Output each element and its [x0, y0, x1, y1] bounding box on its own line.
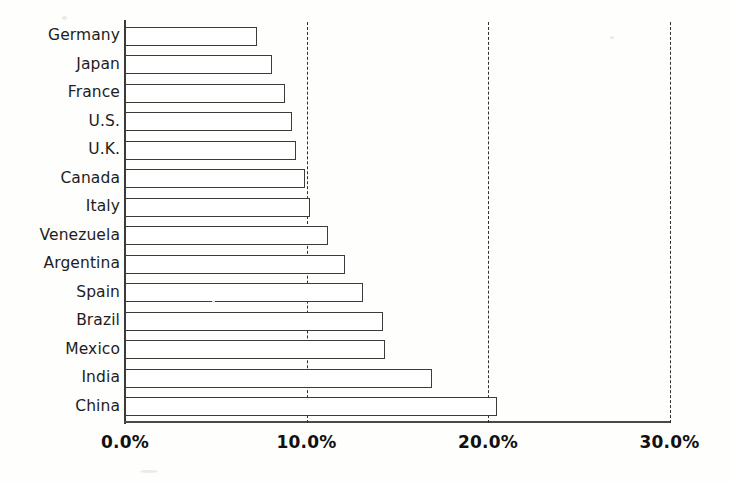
category-label-spain: Spain — [76, 285, 120, 301]
category-label-france: France — [68, 85, 120, 101]
category-label-india: India — [81, 370, 120, 386]
category-label-japan: Japan — [76, 57, 120, 73]
bars-group: GermanyJapanFranceU.S.U.K.CanadaItalyVen… — [0, 0, 731, 484]
bar-spain — [125, 283, 363, 302]
x-tick-label: 20.0% — [458, 432, 518, 452]
bar-canada — [125, 169, 305, 188]
category-label-italy: Italy — [86, 199, 120, 215]
category-label-uk: U.K. — [88, 142, 120, 158]
category-label-mexico: Mexico — [65, 342, 120, 358]
category-label-china: China — [75, 399, 120, 415]
category-label-venezuela: Venezuela — [40, 228, 121, 244]
bar-mexico — [125, 340, 385, 359]
category-label-argentina: Argentina — [43, 256, 120, 272]
bar-chart: GermanyJapanFranceU.S.U.K.CanadaItalyVen… — [0, 0, 731, 484]
x-tick-label: 30.0% — [640, 432, 700, 452]
bar-venezuela — [125, 226, 328, 245]
bar-germany — [125, 27, 257, 46]
bar-china — [125, 397, 497, 416]
x-tick-label: 0.0% — [101, 432, 149, 452]
bar-italy — [125, 198, 310, 217]
bar-argentina — [125, 255, 345, 274]
bar-brazil — [125, 312, 383, 331]
bar-uk — [125, 141, 296, 160]
bar-france — [125, 84, 285, 103]
category-label-germany: Germany — [48, 28, 120, 44]
category-label-brazil: Brazil — [76, 313, 120, 329]
bar-india — [125, 369, 432, 388]
bar-us — [125, 112, 292, 131]
x-tick-label: 10.0% — [277, 432, 337, 452]
category-label-canada: Canada — [60, 171, 120, 187]
category-label-us: U.S. — [89, 114, 120, 130]
bar-japan — [125, 55, 272, 74]
